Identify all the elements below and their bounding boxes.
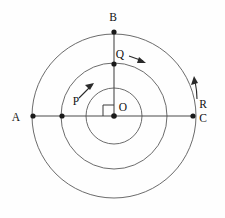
velocity-arrow-q-head: [137, 57, 146, 63]
velocity-arrow-p-head: [85, 83, 94, 90]
point-dot-o: [111, 113, 117, 119]
label-c: C: [199, 112, 207, 124]
label-o: O: [119, 101, 127, 113]
point-dot-c: [190, 113, 195, 118]
velocity-arrow-r-head: [191, 76, 198, 85]
label-b: B: [109, 11, 117, 23]
label-a: A: [12, 111, 21, 123]
concentric-circles-figure: A P O C Q B R: [0, 0, 225, 218]
point-dot-p: [59, 113, 64, 118]
point-dot-q: [111, 61, 116, 66]
diagram-canvas: A P O C Q B R: [0, 0, 225, 218]
label-p: P: [73, 95, 79, 107]
point-dot-a: [30, 113, 35, 118]
label-r: R: [199, 98, 207, 110]
point-dot-b: [111, 29, 116, 34]
label-q: Q: [116, 48, 125, 60]
